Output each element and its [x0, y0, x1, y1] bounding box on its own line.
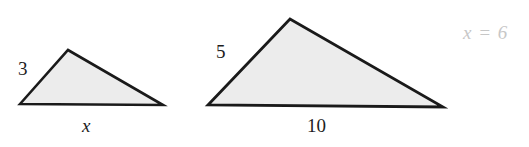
large-triangle: [208, 19, 443, 107]
large-triangle-base-label: 10: [307, 116, 326, 135]
small-triangle-base-label: x: [82, 116, 90, 135]
small-triangle-left-side-label: 3: [18, 59, 28, 78]
small-triangle: [20, 50, 163, 105]
similar-triangles-figure: 3 x 5 10 x = 6: [0, 0, 529, 147]
answer-text: x = 6: [463, 23, 508, 42]
triangles-canvas: [0, 0, 529, 147]
large-triangle-left-side-label: 5: [216, 42, 226, 61]
